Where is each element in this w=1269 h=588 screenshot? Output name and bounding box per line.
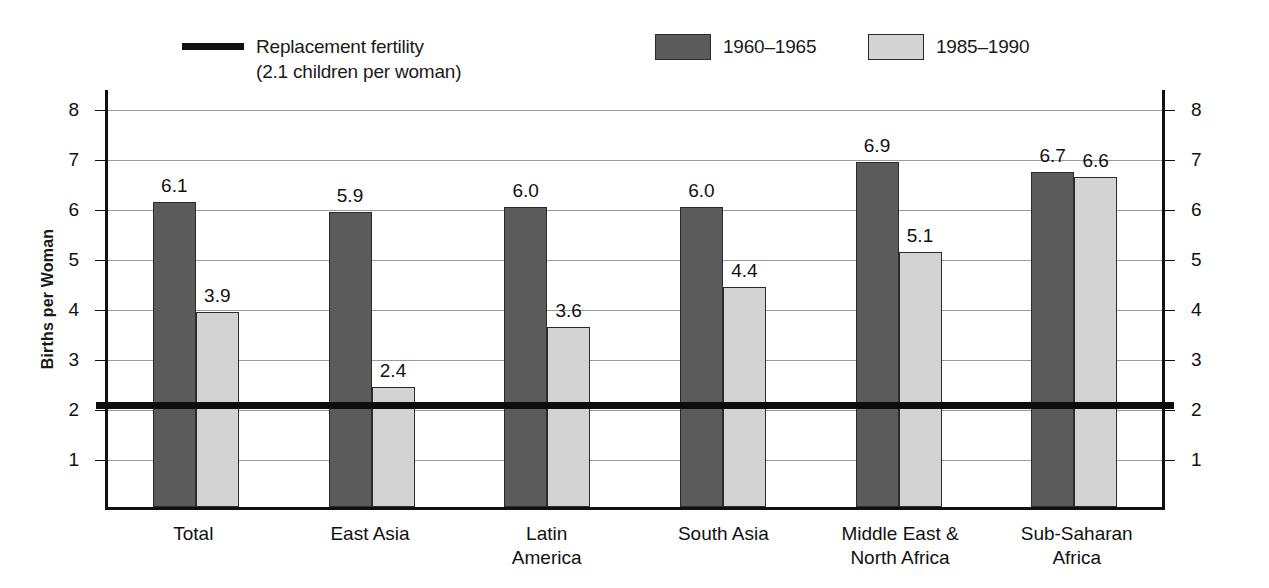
bar-value-label: 6.1 <box>161 176 187 195</box>
category-label-line2: America <box>458 546 635 570</box>
y-axis-tick-label-right: 5 <box>1191 250 1221 269</box>
y-axis-tick-label-left: 4 <box>49 300 79 319</box>
y-axis-tick-label-right: 4 <box>1191 300 1221 319</box>
bar[interactable]: 6.7 <box>1031 172 1074 507</box>
bar-group: 6.76.6 <box>986 90 1162 507</box>
x-axis-category-label: Middle East &North Africa <box>812 522 989 582</box>
legend-line-swatch-icon <box>182 43 244 50</box>
fertility-bar-chart: Replacement fertility (2.1 children per … <box>0 0 1269 588</box>
y-axis-tick-left <box>95 360 108 361</box>
bar-group: 6.03.6 <box>459 90 635 507</box>
legend-item-replacement-fertility: Replacement fertility (2.1 children per … <box>182 34 461 84</box>
x-axis-category-label: South Asia <box>635 522 812 582</box>
bar-value-label: 5.9 <box>337 186 363 205</box>
category-label-line1: East Asia <box>330 523 409 544</box>
bar[interactable]: 6.9 <box>856 162 899 507</box>
category-label-line1: Middle East & <box>841 523 958 544</box>
bar[interactable]: 5.9 <box>329 212 372 507</box>
category-label-line1: Total <box>173 523 213 544</box>
bar-group: 5.92.4 <box>284 90 460 507</box>
legend-label-1960-1965: 1960–1965 <box>723 34 816 60</box>
y-axis-tick-right <box>1162 460 1175 461</box>
y-axis-tick-label-left: 3 <box>49 350 79 369</box>
y-axis-tick-label-left: 1 <box>49 450 79 469</box>
bar[interactable]: 6.0 <box>504 207 547 507</box>
x-axis-category-label: Total <box>105 522 282 582</box>
bar-value-label: 6.7 <box>1039 146 1065 165</box>
y-axis-tick-label-left: 7 <box>49 150 79 169</box>
y-axis-tick-label-right: 6 <box>1191 200 1221 219</box>
y-axis-tick-label-left: 8 <box>49 100 79 119</box>
bar-pair: 6.03.6 <box>459 90 635 507</box>
y-axis-tick-label-right: 8 <box>1191 100 1221 119</box>
bar-value-label: 5.1 <box>907 226 933 245</box>
y-axis-tick-right <box>1162 310 1175 311</box>
y-axis-tick-right <box>1162 110 1175 111</box>
x-axis-category-labels: TotalEast AsiaLatinAmericaSouth AsiaMidd… <box>105 522 1165 582</box>
bar-pair: 6.95.1 <box>811 90 987 507</box>
y-axis-tick-right <box>1162 210 1175 211</box>
bar-value-label: 6.6 <box>1082 151 1108 170</box>
legend-label-1985-1990: 1985–1990 <box>936 34 1029 60</box>
category-label-line1: Sub-Saharan <box>1021 523 1133 544</box>
y-axis-tick-left <box>95 210 108 211</box>
bar[interactable]: 3.6 <box>547 327 590 507</box>
chart-legend: Replacement fertility (2.1 children per … <box>0 26 1269 86</box>
y-axis-tick-label-right: 2 <box>1191 400 1221 419</box>
y-axis-title: Births per Woman <box>39 189 57 409</box>
x-axis-category-label: East Asia <box>282 522 459 582</box>
y-axis-tick-label-left: 5 <box>49 250 79 269</box>
bar-pair: 6.04.4 <box>635 90 811 507</box>
legend-replacement-text: Replacement fertility (2.1 children per … <box>256 34 461 84</box>
y-axis-tick-right <box>1162 410 1175 411</box>
y-axis-tick-left <box>95 160 108 161</box>
y-axis-tick-right <box>1162 360 1175 361</box>
bar[interactable]: 4.4 <box>723 287 766 507</box>
y-axis-tick-left <box>95 310 108 311</box>
chart-caption <box>0 578 1269 588</box>
bar[interactable]: 5.1 <box>899 252 942 507</box>
x-axis-category-label: Sub-SaharanAfrica <box>988 522 1165 582</box>
y-axis-tick-label-right: 1 <box>1191 450 1221 469</box>
bar[interactable]: 3.9 <box>196 312 239 507</box>
category-label-line2: North Africa <box>812 546 989 570</box>
bar[interactable]: 6.0 <box>680 207 723 507</box>
bar-value-label: 2.4 <box>380 361 406 380</box>
y-axis-tick-right <box>1162 260 1175 261</box>
legend-swatch-light-icon <box>868 34 924 60</box>
bar-value-label: 3.9 <box>204 286 230 305</box>
bar-value-label: 6.9 <box>864 136 890 155</box>
legend-item-1985-1990: 1985–1990 <box>868 34 1029 60</box>
y-axis-tick-label-left: 2 <box>49 400 79 419</box>
legend-item-1960-1965: 1960–1965 <box>655 34 816 60</box>
bar-value-label: 4.4 <box>731 261 757 280</box>
bar[interactable]: 6.1 <box>153 202 196 507</box>
y-axis-tick-left <box>95 110 108 111</box>
bar-value-label: 6.0 <box>512 181 538 200</box>
replacement-fertility-line <box>96 402 1174 409</box>
y-axis-tick-label-left: 6 <box>49 200 79 219</box>
category-label-line1: South Asia <box>678 523 769 544</box>
y-axis-tick-label-right: 3 <box>1191 350 1221 369</box>
bar-value-label: 3.6 <box>555 301 581 320</box>
y-axis-tick-left <box>95 260 108 261</box>
bar-value-label: 6.0 <box>688 181 714 200</box>
y-axis-tick-right <box>1162 160 1175 161</box>
category-label-line1: Latin <box>526 523 567 544</box>
legend-replacement-label-line2: (2.1 children per woman) <box>256 59 461 84</box>
bar-pair: 5.92.4 <box>284 90 460 507</box>
bar-groups: 6.13.95.92.46.03.66.04.46.95.16.76.6 <box>108 90 1162 507</box>
legend-replacement-label-line1: Replacement fertility <box>256 36 424 57</box>
x-axis-category-label: LatinAmerica <box>458 522 635 582</box>
bar-pair: 6.13.9 <box>108 90 284 507</box>
bar-group: 6.95.1 <box>811 90 987 507</box>
bar[interactable]: 6.6 <box>1074 177 1117 507</box>
y-axis-tick-left <box>95 460 108 461</box>
y-axis-tick-label-right: 7 <box>1191 150 1221 169</box>
category-label-line2: Africa <box>988 546 1165 570</box>
plot-area: 11223344556677886.13.95.92.46.03.66.04.4… <box>105 90 1165 510</box>
y-axis-tick-left <box>95 410 108 411</box>
bar-group: 6.04.4 <box>635 90 811 507</box>
legend-swatch-dark-icon <box>655 34 711 60</box>
bar-pair: 6.76.6 <box>986 90 1162 507</box>
